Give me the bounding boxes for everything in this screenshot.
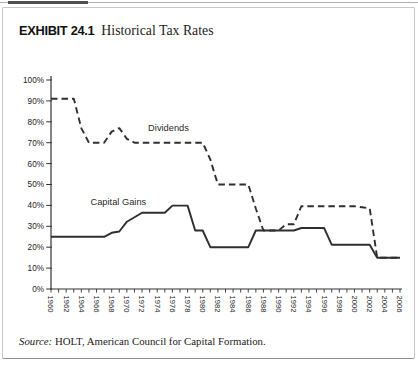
top-rule-accent [8, 1, 88, 4]
x-tick-label: 1968 [107, 296, 116, 313]
y-tick-label: 70% [28, 139, 44, 148]
x-tick-label: 1962 [62, 296, 71, 313]
y-tick-label: 0% [32, 285, 44, 294]
exhibit-number-label: EXHIBIT 24.1 [19, 23, 94, 38]
x-tick-label: 2000 [350, 296, 359, 313]
y-tick-label: 10% [28, 264, 44, 273]
y-tick-label: 20% [28, 243, 44, 252]
x-tick-label: 1988 [259, 296, 268, 313]
source-line: Source: HOLT, American Council for Capit… [19, 335, 266, 347]
x-tick-label: 1986 [244, 296, 253, 313]
series-label-capital-gains: Capital Gains [90, 197, 146, 207]
x-tick-label: 1960 [46, 296, 55, 313]
x-tick-label: 1982 [213, 296, 222, 313]
x-tick-label: 1990 [274, 296, 283, 313]
source-text: HOLT, American Council for Capital Forma… [52, 335, 266, 347]
source-label: Source: [19, 335, 52, 347]
x-tick-label: 1976 [168, 296, 177, 313]
y-tick-label: 40% [28, 201, 44, 210]
x-tick-label: 2004 [380, 296, 389, 313]
x-tick-label: 1994 [304, 296, 313, 313]
x-tick-label: 1984 [228, 296, 237, 313]
y-tick-label: 60% [28, 160, 44, 169]
y-tick-label: 100% [23, 76, 44, 85]
series-capital-gains [51, 206, 400, 258]
tax-rates-line-chart: 0%10%20%30%40%50%60%70%80%90%100%1960196… [11, 64, 413, 316]
x-tick-label: 1998 [335, 296, 344, 313]
exhibit-title-text: Historical Tax Rates [101, 23, 213, 38]
x-tick-label: 1996 [320, 296, 329, 313]
series-label-dividends: Dividends [148, 123, 189, 133]
x-tick-label: 1972 [137, 296, 146, 313]
x-tick-label: 1980 [198, 296, 207, 313]
y-tick-label: 30% [28, 222, 44, 231]
x-tick-label: 1978 [183, 296, 192, 313]
page: EXHIBIT 24.1Historical Tax Rates 0%10%20… [0, 0, 418, 367]
x-tick-label: 1970 [122, 296, 131, 313]
exhibit-title: EXHIBIT 24.1Historical Tax Rates [19, 21, 214, 39]
x-tick-label: 1992 [289, 296, 298, 313]
x-tick-label: 2006 [395, 296, 404, 313]
top-rule [0, 2, 418, 3]
y-tick-label: 50% [28, 180, 44, 189]
x-tick-label: 2002 [365, 296, 374, 313]
y-tick-label: 80% [28, 118, 44, 127]
exhibit-box: EXHIBIT 24.1Historical Tax Rates 0%10%20… [2, 7, 415, 359]
x-tick-label: 1974 [153, 296, 162, 313]
series-dividends [51, 99, 400, 258]
x-tick-label: 1966 [92, 296, 101, 313]
y-tick-label: 90% [28, 97, 44, 106]
x-tick-label: 1964 [77, 296, 86, 313]
